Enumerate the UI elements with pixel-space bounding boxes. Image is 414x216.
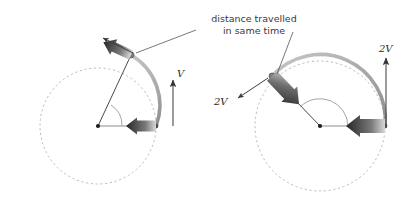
velocity-label-right-top: 2V <box>378 43 394 54</box>
figure-canvas: V 2V <box>0 0 414 216</box>
panel-left: V <box>40 34 186 184</box>
velocity-label-right-tangent: 2V <box>213 96 229 107</box>
radius-line-left-end <box>98 55 131 126</box>
leader-line-left <box>136 30 196 53</box>
caption-group: distance travelled in same time <box>136 13 297 74</box>
tangent-arrow-right <box>238 78 268 98</box>
physics-diagram: V 2V <box>0 0 414 216</box>
centripetal-arrow-right-start <box>346 115 385 137</box>
panel-right: 2V 2V <box>213 43 394 191</box>
angle-arc-right <box>301 99 348 126</box>
centripetal-arrow-left-start <box>126 118 156 135</box>
angle-arc-left <box>111 105 122 126</box>
center-dot-left <box>96 124 100 128</box>
caption-line-1: distance travelled <box>211 13 296 24</box>
center-dot-right <box>318 124 322 128</box>
velocity-label-left: V <box>177 68 186 79</box>
caption-line-2: in same time <box>223 25 285 36</box>
travelled-arc-left <box>131 55 160 126</box>
